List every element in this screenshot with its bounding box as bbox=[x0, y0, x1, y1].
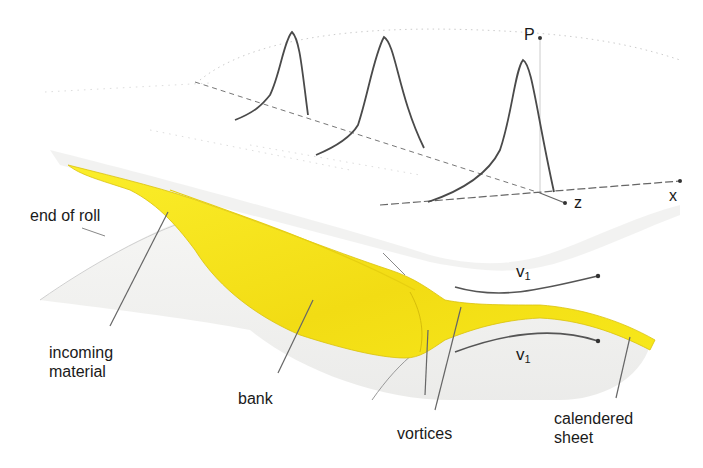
leader-end-of-roll bbox=[82, 228, 105, 236]
velocity-label-upper: v1 bbox=[516, 262, 531, 282]
x-axis bbox=[380, 181, 680, 205]
upper-velocity-dot bbox=[596, 274, 600, 278]
velocity-symbol-lower: v bbox=[516, 345, 525, 364]
velocity-symbol-upper: v bbox=[516, 262, 525, 281]
velocity-label-lower: v1 bbox=[516, 345, 531, 365]
pressure-plane-outline bbox=[200, 29, 680, 80]
pressure-plane-dotted-2 bbox=[150, 130, 350, 170]
label-calendered-sheet-line1: calendered bbox=[554, 409, 633, 428]
label-calendered-sheet-line2: sheet bbox=[554, 428, 633, 447]
axis-label-z: z bbox=[574, 194, 582, 212]
velocity-subscript-lower: 1 bbox=[525, 353, 531, 365]
axis-label-x: x bbox=[669, 187, 677, 205]
p-axis-dot bbox=[538, 36, 542, 40]
profile-center-line bbox=[195, 82, 540, 193]
pressure-plane-dotted-1 bbox=[45, 83, 210, 92]
pressure-plane-dotted-3 bbox=[250, 145, 420, 175]
z-axis bbox=[540, 193, 565, 203]
pressure-profile-2 bbox=[316, 37, 424, 155]
lower-velocity-dot bbox=[596, 339, 600, 343]
pressure-profile-1 bbox=[235, 32, 308, 120]
calendering-diagram bbox=[0, 0, 703, 468]
x-axis-dot bbox=[678, 179, 682, 183]
axis-label-p: P bbox=[524, 26, 535, 44]
velocity-subscript-upper: 1 bbox=[525, 270, 531, 282]
label-bank: bank bbox=[238, 389, 273, 408]
label-incoming-material-line1: incoming bbox=[49, 343, 113, 362]
label-incoming-material-line2: material bbox=[49, 362, 113, 381]
label-vortices: vortices bbox=[397, 424, 452, 443]
pressure-profile-3 bbox=[428, 60, 554, 202]
label-end-of-roll: end of roll bbox=[30, 206, 100, 225]
z-axis-dot bbox=[563, 201, 567, 205]
label-incoming-material: incoming material bbox=[49, 343, 113, 381]
label-calendered-sheet: calendered sheet bbox=[554, 409, 633, 447]
